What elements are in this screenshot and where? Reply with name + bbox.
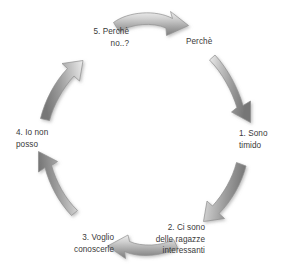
arrow-upper-right-icon bbox=[210, 55, 251, 123]
cycle-diagram: Perchè 1. Sono timido 2. Ci sono delle r… bbox=[0, 0, 290, 280]
arrow-upper-left-icon bbox=[41, 61, 84, 121]
arrow-lower-left-icon bbox=[39, 152, 78, 216]
cycle-label-step1: 1. Sono timido bbox=[239, 128, 268, 151]
cycle-label-step4: 4. Io non posso bbox=[16, 127, 48, 150]
arrow-lower-right-icon bbox=[204, 163, 247, 222]
cycle-label-step3: 3. Voglio conoscerle bbox=[74, 232, 114, 255]
cycle-label-step2: 2. Ci sono delle ragazze interessanti bbox=[156, 222, 205, 257]
cycle-label-step5: 5. Perchè no..? bbox=[94, 26, 130, 49]
cycle-label-start: Perchè bbox=[186, 36, 212, 48]
